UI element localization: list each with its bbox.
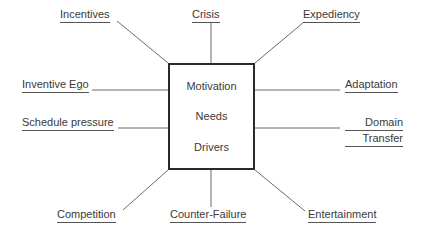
node-label-competition: Competition — [57, 207, 116, 223]
node-label-adaptation: Adaptation — [345, 77, 398, 93]
node-inventive-ego[interactable]: Inventive Ego — [22, 77, 89, 93]
node-label-schedule-pressure: Schedule pressure — [22, 115, 114, 131]
node-label-domain: Domain — [345, 115, 403, 131]
node-crisis[interactable]: Crisis — [192, 7, 220, 23]
center-label-drivers: Drivers — [194, 141, 229, 153]
node-entertainment[interactable]: Entertainment — [308, 207, 376, 223]
node-label-counter-failure: Counter-Failure — [170, 207, 246, 223]
connector-entertainment — [255, 170, 305, 211]
node-counter-failure[interactable]: Counter-Failure — [170, 207, 246, 223]
node-expediency[interactable]: Expediency — [303, 7, 360, 23]
center-label-needs: Needs — [196, 110, 228, 122]
diagram-canvas: Motivation Needs Drivers Incentives Cris… — [0, 0, 429, 234]
node-schedule-pressure[interactable]: Schedule pressure — [22, 115, 114, 131]
node-label-inventive-ego: Inventive Ego — [22, 77, 89, 93]
node-label-incentives: Incentives — [60, 7, 110, 23]
center-label-motivation: Motivation — [186, 80, 236, 92]
node-adaptation[interactable]: Adaptation — [345, 77, 398, 93]
node-label-crisis: Crisis — [192, 7, 220, 23]
node-competition[interactable]: Competition — [57, 207, 116, 223]
center-box: Motivation Needs Drivers — [168, 63, 255, 170]
node-domain-transfer[interactable]: Domain Transfer — [345, 115, 403, 147]
connector-expediency — [255, 22, 304, 63]
node-incentives[interactable]: Incentives — [60, 7, 110, 23]
connector-incentives — [117, 21, 168, 63]
node-label-expediency: Expediency — [303, 7, 360, 23]
connector-competition — [123, 170, 168, 210]
node-label-transfer: Transfer — [345, 131, 403, 147]
node-label-entertainment: Entertainment — [308, 207, 376, 223]
